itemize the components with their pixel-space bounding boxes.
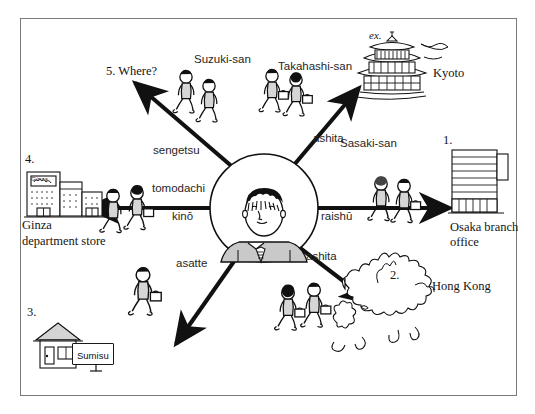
label-ashita-southeast: ashita bbox=[306, 250, 337, 263]
label-sasaki-san: Sasaki-san bbox=[340, 137, 397, 150]
label-suzuki-san: Suzuki-san bbox=[194, 53, 251, 66]
label-asatte: asatte bbox=[176, 257, 207, 270]
label-tomodachi: tomodachi bbox=[152, 182, 205, 195]
label-ginza-line2: department store bbox=[22, 234, 106, 248]
label-ginza-line1: Ginza bbox=[22, 218, 52, 232]
label-number-4: 4. bbox=[25, 152, 34, 166]
label-raishu: raishū bbox=[321, 210, 352, 223]
label-sengetsu: sengetsu bbox=[153, 144, 200, 157]
diagram-canvas: 5. Where? Suzuki-san Takahashi-san ex. K… bbox=[0, 0, 535, 414]
label-osaka-line1: Osaka branch bbox=[450, 220, 518, 234]
label-number-2: 2. bbox=[390, 268, 399, 282]
sumisu-sign-text: Sumisu bbox=[77, 350, 109, 361]
label-ex: ex. bbox=[369, 29, 382, 41]
label-number-3: 3. bbox=[27, 305, 36, 319]
sumisu-sign: Sumisu bbox=[72, 343, 114, 365]
ginza-building-sign: Ginza bbox=[31, 176, 48, 183]
label-where: 5. Where? bbox=[106, 64, 157, 78]
label-osaka-line2: office bbox=[450, 235, 479, 249]
label-takahashi-san: Takahashi-san bbox=[278, 60, 352, 73]
label-number-1: 1. bbox=[443, 133, 452, 147]
label-kino: kinō bbox=[172, 210, 193, 223]
label-kyoto: Kyoto bbox=[433, 66, 464, 80]
label-hong-kong: Hong Kong bbox=[432, 279, 491, 293]
